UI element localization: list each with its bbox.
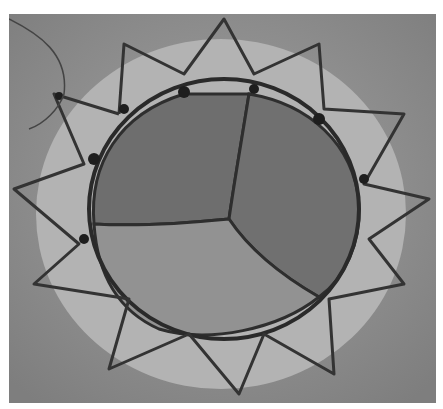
valve-illustration [9,14,436,403]
valve-photo [9,14,436,403]
